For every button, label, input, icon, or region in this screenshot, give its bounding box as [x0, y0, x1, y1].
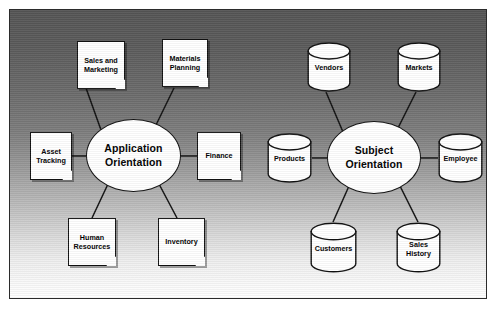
node-human-resources-line2: Resources	[74, 242, 111, 251]
document-fold-icon	[231, 170, 241, 180]
hub-subject-orientation[interactable]: Subject Orientation	[327, 121, 421, 194]
document-fold-icon	[198, 77, 208, 87]
diagram-frame: Sales and Marketing Materials Planning A…	[9, 9, 487, 299]
diagram-canvas: Sales and Marketing Materials Planning A…	[0, 0, 498, 313]
hub-application-orientation-line2: Orientation	[105, 156, 162, 168]
document-fold-icon	[62, 170, 72, 180]
node-sales-history[interactable]: Sales History	[396, 222, 441, 273]
hub-application-orientation-line1: Application	[104, 142, 162, 154]
node-employee-line1: Employee	[444, 154, 478, 163]
node-asset-tracking-line1: Asset	[41, 147, 61, 156]
node-sales-history-line1: Sales	[409, 239, 428, 248]
node-sales-and-marketing-line2: Marketing	[84, 65, 118, 74]
node-products[interactable]: Products	[267, 133, 312, 183]
node-employee[interactable]: Employee	[438, 133, 483, 183]
node-human-resources-line1: Human	[80, 233, 104, 242]
node-customers[interactable]: Customers	[310, 222, 357, 273]
link-materials-planning	[156, 88, 174, 125]
node-vendors[interactable]: Vendors	[307, 42, 351, 92]
node-sales-and-marketing-line1: Sales and	[84, 56, 118, 65]
node-materials-planning[interactable]: Materials Planning	[162, 39, 208, 87]
document-fold-icon	[195, 256, 205, 266]
node-inventory[interactable]: Inventory	[158, 218, 205, 266]
node-products-line1: Products	[274, 154, 305, 163]
node-sales-and-marketing[interactable]: Sales and Marketing	[77, 41, 125, 89]
link-inventory	[159, 184, 177, 218]
node-materials-planning-line1: Materials	[169, 54, 200, 63]
node-markets-line1: Markets	[405, 63, 432, 72]
node-materials-planning-line2: Planning	[170, 63, 200, 72]
node-inventory-line1: Inventory	[165, 237, 197, 246]
node-vendors-line1: Vendors	[315, 63, 343, 72]
document-fold-icon	[115, 79, 125, 89]
link-markets	[398, 92, 416, 128]
node-customers-line1: Customers	[315, 243, 353, 252]
link-human-resources	[92, 184, 108, 218]
node-markets[interactable]: Markets	[397, 42, 441, 92]
document-fold-icon	[106, 256, 116, 266]
node-sales-history-line2: History	[406, 248, 431, 257]
node-human-resources[interactable]: Human Resources	[68, 218, 116, 266]
node-asset-tracking[interactable]: Asset Tracking	[30, 132, 72, 180]
hub-application-orientation[interactable]: Application Orientation	[86, 119, 181, 192]
link-vendors	[326, 92, 343, 132]
link-sales-history	[400, 186, 418, 222]
hub-subject-orientation-line1: Subject	[355, 144, 394, 156]
node-finance-line1: Finance	[205, 151, 232, 160]
link-customers	[333, 186, 349, 222]
node-finance[interactable]: Finance	[197, 132, 241, 180]
node-asset-tracking-line2: Tracking	[36, 156, 66, 165]
hub-subject-orientation-line2: Orientation	[345, 158, 402, 170]
link-sales-and-marketing	[86, 88, 101, 130]
